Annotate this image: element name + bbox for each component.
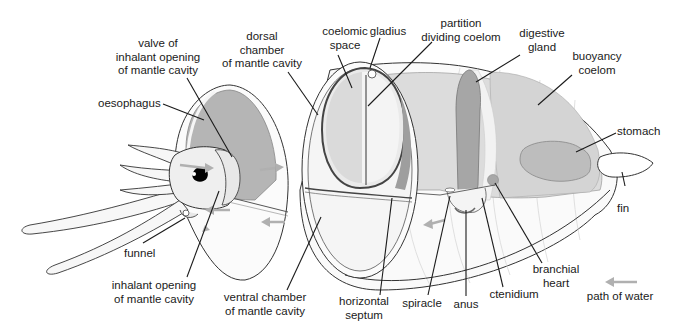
- label-fin: fin: [617, 202, 629, 214]
- label-oesophagus: oesophagus: [98, 97, 161, 109]
- label-ctenidium: ctenidium: [489, 288, 538, 300]
- squid-anatomy-diagram: valve ofinhalant openingof mantle cavity…: [0, 0, 677, 334]
- label-horizontal-septum: horizontalseptum: [339, 295, 389, 321]
- label-gladius: gladius: [370, 25, 407, 37]
- label-coelomic-space: coelomicspace: [322, 25, 368, 51]
- middle-cross-section: [302, 62, 418, 278]
- label-buoyancy-coelom: buoyancycoelom: [572, 50, 621, 76]
- label-anus: anus: [454, 298, 479, 310]
- label-funnel: funnel: [124, 247, 155, 259]
- fin: [598, 153, 653, 177]
- spiracle: [445, 188, 455, 192]
- label-ventral-chamber: ventral chamberof mantle cavity: [224, 291, 307, 317]
- legend-label: path of water: [587, 290, 654, 302]
- label-branchial-heart: branchialheart: [533, 263, 580, 289]
- digestive-gland: [456, 70, 481, 199]
- label-dorsal-chamber: dorsalchamberof mantle cavity: [222, 30, 302, 69]
- label-partition: partitiondividing coelom: [421, 17, 500, 43]
- label-stomach: stomach: [617, 125, 660, 137]
- legend: path of water: [587, 277, 654, 302]
- label-inhalant-opening: inhalant openingof mantle cavity: [112, 279, 196, 305]
- label-digestive-gland: digestivegland: [519, 27, 564, 53]
- gladius: [368, 70, 376, 78]
- legend-arrow-icon: [605, 277, 637, 287]
- branchial-heart: [488, 175, 499, 186]
- label-valve: valve ofinhalant openingof mantle cavity: [116, 37, 200, 76]
- label-spiracle: spiracle: [402, 297, 442, 309]
